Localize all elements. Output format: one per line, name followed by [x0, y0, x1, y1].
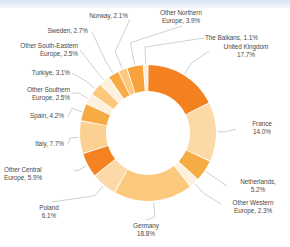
leader-line — [146, 202, 155, 220]
slice-label-the-balkans: The Balkans, 1.1% — [205, 34, 289, 42]
slice-label-netherlands: Netherlands, 5.2% — [228, 178, 288, 193]
slice-label-united-kingdom: United Kingdom 17.7% — [206, 43, 286, 58]
donut-slice — [148, 65, 208, 114]
slice-label-other-central-europe: Other Central Europe, 5.9% — [4, 166, 74, 181]
slice-label-italy: Italy, 7.7% — [6, 140, 64, 148]
leader-line — [68, 137, 79, 144]
leader-line — [80, 50, 103, 80]
leader-line — [217, 129, 236, 132]
leader-line — [206, 172, 227, 186]
slice-label-france: France 14.0% — [237, 120, 287, 135]
slice-label-spain: Spain, 4.2% — [6, 112, 64, 120]
leader-line — [145, 38, 204, 64]
slice-label-other-south-eastern-europe: Other South-Eastern Europe, 2.5% — [0, 42, 78, 57]
slice-label-poland: Poland 6.1% — [24, 204, 74, 219]
leader-line — [72, 93, 88, 98]
slice-label-norway: Norway, 2.1% — [62, 12, 128, 20]
donut-slice — [115, 166, 190, 201]
slice-label-sweden: Sweden, 2.7% — [20, 27, 88, 35]
slice-label-germany: Germany 18.8% — [116, 222, 176, 237]
donut-slice — [186, 104, 216, 161]
leader-line — [52, 186, 103, 202]
leader-line — [74, 166, 87, 171]
leader-line — [92, 32, 113, 73]
leader-line — [115, 19, 130, 68]
slice-label-other-western-europe: Other Western Europe, 2.3% — [218, 199, 288, 214]
leader-line — [72, 73, 95, 88]
leader-line — [68, 108, 82, 117]
slice-label-other-northern-europe: Other Northern Europe, 3.9% — [146, 9, 216, 24]
slice-label-turkiye: Turkiye, 3.1% — [6, 69, 70, 77]
donut-slice-group — [80, 65, 216, 201]
donut-chart: Other Northern Europe, 3.9% The Balkans,… — [0, 0, 290, 247]
slice-label-other-southern-europe: Other Southern Europe, 2.5% — [0, 86, 70, 101]
